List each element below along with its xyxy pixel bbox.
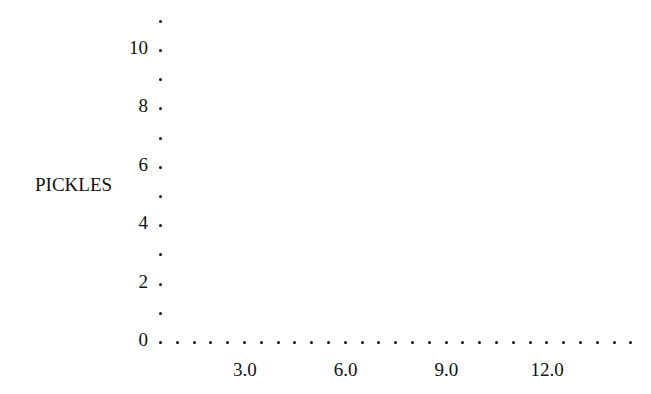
x-axis-dot: [277, 341, 280, 344]
x-axis-dot: [377, 341, 380, 344]
y-axis-dot: [159, 107, 162, 110]
y-axis-dot: [159, 195, 162, 198]
x-axis-dot: [327, 341, 330, 344]
y-tick-label: 6: [108, 155, 148, 175]
y-axis-dot: [159, 78, 162, 81]
x-axis-dot: [545, 341, 548, 344]
x-axis-dot: [495, 341, 498, 344]
x-axis-dot: [562, 341, 565, 344]
x-axis-dot: [579, 341, 582, 344]
y-tick-label: 0: [108, 330, 148, 350]
x-axis-dot: [344, 341, 347, 344]
x-axis-dot: [629, 341, 632, 344]
y-tick-label: 10: [108, 38, 148, 58]
x-axis-dot: [293, 341, 296, 344]
x-axis-dot: [445, 341, 448, 344]
y-axis-dot: [159, 20, 162, 23]
y-tick-label: 4: [108, 213, 148, 233]
x-axis-dot: [461, 341, 464, 344]
x-axis-dot: [613, 341, 616, 344]
x-tick-label: 3.0: [215, 360, 275, 380]
y-axis-dot: [159, 224, 162, 227]
y-axis-dot: [159, 253, 162, 256]
x-axis-dot: [209, 341, 212, 344]
x-axis-dot: [512, 341, 515, 344]
y-axis-dot: [159, 137, 162, 140]
x-axis-dot: [529, 341, 532, 344]
x-axis-dot: [193, 341, 196, 344]
x-axis-dot: [361, 341, 364, 344]
y-axis-title: PICKLES: [35, 175, 112, 195]
x-axis-dot: [394, 341, 397, 344]
x-axis-dot: [310, 341, 313, 344]
y-axis-dot: [159, 341, 162, 344]
y-axis-dot: [159, 283, 162, 286]
x-tick-label: 6.0: [316, 360, 376, 380]
x-axis-dot: [176, 341, 179, 344]
x-axis-dot: [596, 341, 599, 344]
x-axis-dot: [226, 341, 229, 344]
y-tick-label: 2: [108, 272, 148, 292]
y-axis-dot: [159, 49, 162, 52]
x-axis-dot: [243, 341, 246, 344]
x-tick-label: 12.0: [517, 360, 577, 380]
x-axis-dot: [428, 341, 431, 344]
x-axis-dot: [260, 341, 263, 344]
y-axis-dot: [159, 166, 162, 169]
x-axis-dot: [411, 341, 414, 344]
x-axis-dot: [478, 341, 481, 344]
y-tick-label: 8: [108, 96, 148, 116]
x-tick-label: 9.0: [416, 360, 476, 380]
y-axis-dot: [159, 312, 162, 315]
chart-area: 0246810 3.06.09.012.0 PICKLES: [0, 0, 651, 394]
